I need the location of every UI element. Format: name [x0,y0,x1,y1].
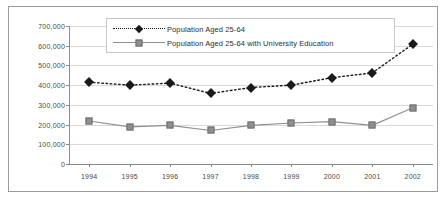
data-point-square-2001[interactable] [369,122,376,129]
y-tick-mark [66,85,69,86]
x-tick-mark [130,164,131,167]
data-point-square-1997[interactable] [207,127,214,134]
data-point-square-1996[interactable] [167,122,174,129]
data-point-square-1995[interactable] [126,123,133,130]
legend-item-population-aged-25-64-with-university-education[interactable]: Population Aged 25-64 with University Ed… [111,36,390,50]
data-point-square-2002[interactable] [409,104,416,111]
data-point-square-2000[interactable] [328,118,335,125]
x-tick-mark [332,164,333,167]
y-tick-mark [66,164,69,165]
x-tick-mark [211,164,212,167]
y-tick-mark [66,105,69,106]
diamond-marker-icon [135,25,143,33]
x-tick-mark [372,164,373,167]
chart-frame: 0100,000200,000300,000400,000500,000600,… [8,6,438,192]
legend-item-population-aged-25-64[interactable]: Population Aged 25-64 [111,22,390,36]
legend-key-diamond-dotted [111,23,167,35]
square-marker-icon [136,40,143,47]
chart-legend: Population Aged 25-64 Population Aged 25… [106,18,395,53]
legend-label-series-1: Population Aged 25-64 [167,25,245,34]
data-point-square-1994[interactable] [86,118,93,125]
legend-label-series-2: Population Aged 25-64 with University Ed… [167,39,333,48]
y-tick-mark [66,144,69,145]
x-tick-mark [291,164,292,167]
x-tick-mark [89,164,90,167]
y-tick-mark [66,125,69,126]
y-tick-mark [66,26,69,27]
data-point-square-1999[interactable] [288,119,295,126]
y-tick-mark [66,65,69,66]
x-tick-mark [170,164,171,167]
x-tick-mark [251,164,252,167]
legend-key-square-solid [111,37,167,49]
x-tick-mark [413,164,414,167]
y-tick-mark [66,46,69,47]
data-point-square-1998[interactable] [248,122,255,129]
